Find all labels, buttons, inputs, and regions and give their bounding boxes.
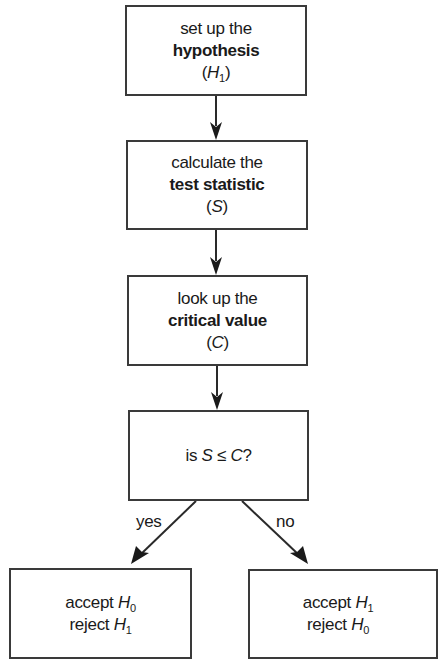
edge-label-no: no (276, 512, 294, 532)
reject-text: reject (307, 615, 351, 634)
node-critical-value-line1: look up the (178, 288, 258, 310)
node-accept-null-line1: accept H0 (65, 592, 136, 614)
symbol-var: H (207, 63, 219, 82)
arrow-hypothesis-to-test-statistic (210, 96, 222, 140)
node-critical-value: look up the critical value (C) (127, 275, 308, 366)
node-test-statistic-symbol: (S) (206, 196, 228, 218)
node-critical-value-symbol: (C) (206, 332, 229, 354)
node-hypothesis-title: hypothesis (173, 40, 260, 62)
paren-close: ) (223, 333, 228, 352)
arrow-decision-no (242, 501, 308, 564)
paren-close: ) (225, 63, 230, 82)
accept-text: accept (303, 593, 356, 612)
decision-var-s: S (202, 446, 213, 465)
decision-operator: ≤ (213, 446, 231, 465)
paren-close: ) (223, 197, 228, 216)
symbol-var: H (351, 615, 363, 634)
symbol-var: H (114, 615, 126, 634)
reject-text: reject (69, 615, 113, 634)
node-accept-null: accept H0 reject H1 (9, 568, 192, 659)
node-accept-alternative: accept H1 reject H0 (248, 569, 438, 659)
symbol-var: C (212, 333, 224, 352)
arrow-decision-yes (131, 501, 196, 564)
accept-text: accept (65, 593, 118, 612)
node-test-statistic-line1: calculate the (171, 152, 263, 174)
symbol-subscript: 0 (363, 624, 369, 636)
decision-var-c: C (230, 446, 242, 465)
node-hypothesis-line1: set up the (180, 18, 252, 40)
arrow-test-statistic-to-critical-value (210, 230, 222, 275)
node-accept-alternative-line2: reject H0 (307, 614, 369, 636)
symbol-subscript: 1 (126, 624, 132, 636)
node-critical-value-title: critical value (168, 310, 267, 332)
node-accept-null-line2: reject H1 (69, 614, 131, 636)
symbol-subscript: 1 (367, 602, 373, 614)
node-accept-alternative-line1: accept H1 (303, 592, 374, 614)
symbol-subscript: 0 (130, 602, 136, 614)
node-hypothesis: set up the hypothesis (H1) (125, 5, 307, 96)
node-decision: is S ≤ C? (128, 410, 309, 501)
node-test-statistic: calculate the test statistic (S) (126, 140, 308, 230)
symbol-var: S (211, 197, 222, 216)
edge-label-yes: yes (136, 512, 162, 532)
node-test-statistic-title: test statistic (169, 174, 264, 196)
node-hypothesis-symbol: (H1) (202, 62, 231, 84)
arrow-critical-value-to-decision (211, 366, 223, 410)
symbol-var: H (355, 593, 367, 612)
decision-text-suffix: ? (242, 446, 251, 465)
decision-text-prefix: is (185, 446, 201, 465)
symbol-var: H (118, 593, 130, 612)
node-decision-question: is S ≤ C? (185, 445, 251, 467)
